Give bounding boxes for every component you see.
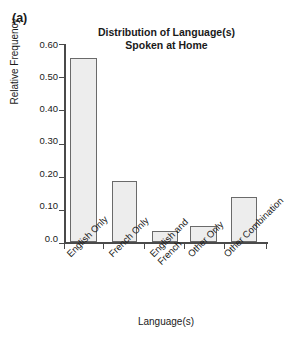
y-tick-mark	[59, 44, 64, 45]
y-tick-mark	[59, 210, 64, 211]
y-tick-label: 0.40	[24, 104, 58, 114]
x-axis-title: Language(s)	[64, 316, 268, 327]
y-tick-label: 0.20	[24, 169, 58, 179]
y-axis-title: Relative Frequency	[9, 2, 20, 122]
x-tick-mark	[103, 244, 104, 249]
y-tick-label: 0.10	[24, 201, 58, 211]
bar-english-only	[70, 58, 97, 242]
y-tick-label: 0.0	[24, 234, 58, 244]
y-tick-mark	[59, 77, 64, 78]
chart-title-line-1: Distribution of Language(s)	[64, 26, 269, 39]
x-tick-mark	[144, 244, 145, 249]
y-axis-tick-labels: 0.60 0.50 0.40 0.30 0.20 0.10 0.0	[22, 44, 58, 244]
y-tick-mark	[59, 110, 64, 111]
y-tick-label: 0.60	[24, 40, 58, 50]
y-tick-label: 0.50	[24, 72, 58, 82]
x-tick-mark	[266, 244, 267, 249]
y-tick-mark	[59, 144, 64, 145]
x-tick-mark	[64, 244, 65, 249]
y-tick-mark	[59, 177, 64, 178]
plot-area	[64, 44, 268, 244]
y-axis-spine	[64, 44, 66, 244]
figure-panel-a: (a) Distribution of Language(s) Spoken a…	[0, 0, 285, 337]
y-tick-label: 0.30	[24, 136, 58, 146]
